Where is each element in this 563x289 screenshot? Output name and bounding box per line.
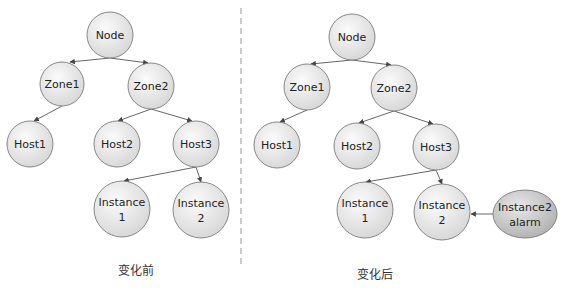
node-label: Instance: [99, 196, 146, 209]
node-label: Zone2: [376, 82, 411, 95]
right-node-zone1: Zone1: [284, 64, 330, 110]
node-label: Host2: [341, 140, 373, 153]
edge-host3-instance2: [196, 167, 201, 182]
node-label-line2: 1: [362, 212, 369, 225]
node-label: Host3: [420, 141, 452, 154]
right-node-host2: Host2: [334, 123, 380, 169]
left-node-zone2: Zone2: [128, 63, 174, 109]
alarm-label-line2: alarm: [509, 216, 541, 229]
right-node-host3: Host3: [413, 124, 459, 170]
edge-node-zone1: [311, 60, 352, 64]
node-label: Zone1: [44, 78, 79, 91]
node-circle: [414, 184, 470, 240]
right-node-node: Node: [329, 14, 375, 60]
node-label: Host1: [14, 138, 46, 151]
node-label: Zone1: [289, 81, 324, 94]
edge-zone1-host1: [280, 110, 307, 122]
node-label-line2: 2: [198, 212, 205, 225]
alarm-label: Instance2: [498, 201, 552, 214]
edge-node-zone1: [70, 58, 110, 62]
right-node-instance1: Instance1: [337, 182, 393, 238]
right-tree: NodeZone1Zone2Host1Host2Host3Instance1In…: [254, 14, 557, 240]
left-node-host1: Host1: [7, 121, 53, 167]
caption-after: 变化后: [357, 267, 393, 282]
edge-host3-instance1: [124, 167, 196, 181]
left-node-instance2: Instance2: [173, 182, 229, 238]
right-node-instance2: Instance2: [414, 184, 470, 240]
node-circle: [173, 182, 229, 238]
left-node-node: Node: [87, 12, 133, 58]
edge-zone2-host3: [394, 111, 433, 124]
caption-before: 变化前: [118, 263, 154, 278]
node-label: Node: [96, 29, 125, 42]
node-circle: [337, 182, 393, 238]
edge-node-zone2: [352, 60, 391, 65]
node-label: Node: [338, 31, 367, 44]
node-label: Zone2: [133, 80, 168, 93]
left-node-zone1: Zone1: [40, 62, 84, 106]
node-label-line2: 1: [119, 211, 126, 224]
diagram-canvas: NodeZone1Zone2Host1Host2Host3Instance1In…: [0, 0, 563, 289]
node-label: Instance: [419, 199, 466, 212]
left-tree: NodeZone1Zone2Host1Host2Host3Instance1In…: [7, 12, 229, 238]
node-label: Host3: [180, 138, 212, 151]
left-node-instance1: Instance1: [94, 181, 150, 237]
edge-zone1-host1: [34, 106, 62, 121]
node-label: Host1: [261, 139, 293, 152]
edge-node-zone2: [110, 58, 148, 63]
left-node-host2: Host2: [94, 121, 140, 167]
node-label: Instance: [342, 197, 389, 210]
node-label: Instance: [178, 197, 225, 210]
node-circle: [94, 181, 150, 237]
left-node-host3: Host3: [173, 121, 219, 167]
right-node-zone2: Zone2: [371, 65, 417, 111]
edge-host3-instance1: [366, 170, 436, 182]
right-node-host1: Host1: [254, 122, 300, 168]
edge-zone2-host2: [359, 111, 394, 123]
alarm-ellipse: [493, 190, 557, 238]
edge-host3-instance2: [436, 170, 442, 184]
alarm-node: Instance2alarm: [493, 190, 557, 238]
node-label: Host2: [101, 138, 133, 151]
node-label-line2: 2: [439, 214, 446, 227]
edge-zone2-host2: [118, 109, 151, 121]
edge-zone2-host3: [151, 109, 192, 121]
